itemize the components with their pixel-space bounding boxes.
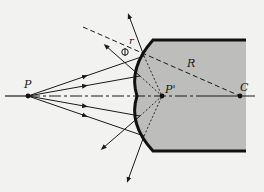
point-P-prime: [160, 94, 165, 99]
label-r: r: [129, 36, 134, 46]
label-P-prime: P': [165, 84, 175, 95]
incident-ray-2: [28, 76, 140, 96]
refraction-diagram: [0, 0, 264, 192]
label-P: P: [24, 79, 31, 90]
label-C: C: [240, 82, 248, 93]
incident-ray-3: [28, 96, 140, 116]
incident-ray-4: [28, 96, 144, 136]
label-R: R: [187, 58, 195, 69]
point-P: [26, 94, 31, 99]
point-C: [238, 94, 243, 99]
incident-ray-1: [28, 56, 144, 96]
outgoing-ray-down: [128, 136, 144, 180]
